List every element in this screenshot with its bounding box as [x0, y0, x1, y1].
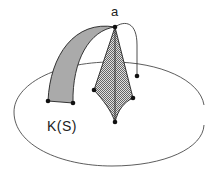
- diagram-canvas: a K(S): [0, 0, 217, 182]
- apex-label: a: [111, 4, 118, 19]
- diagram-svg: [0, 0, 217, 182]
- region-label: K(S): [47, 118, 77, 134]
- kite-shape: [94, 27, 133, 122]
